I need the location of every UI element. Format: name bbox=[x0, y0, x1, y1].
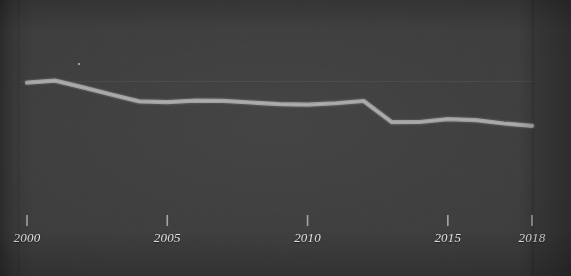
dust-speck bbox=[78, 63, 80, 65]
x-axis-label-2018: 2018 bbox=[519, 230, 546, 246]
x-axis-label-2010: 2010 bbox=[294, 230, 321, 246]
x-axis-label-2000: 2000 bbox=[14, 230, 41, 246]
x-axis-tick-marks bbox=[27, 215, 532, 226]
chart-plot-area bbox=[0, 0, 571, 276]
x-axis-label-2005: 2005 bbox=[154, 230, 181, 246]
x-axis-label-2015: 2015 bbox=[434, 230, 461, 246]
chart-screenshot: 20002005201020152018 bbox=[0, 0, 571, 276]
line-chart-svg bbox=[0, 0, 571, 276]
